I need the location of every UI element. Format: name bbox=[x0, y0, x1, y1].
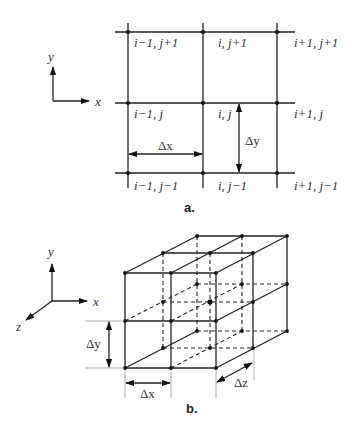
x-axis-label: x bbox=[92, 294, 99, 309]
node-labels: i−1, j+1 i, j+1 i+1, j+1 i−1, j i, j i+1… bbox=[134, 35, 338, 193]
node-label: i−1, j−1 bbox=[134, 178, 178, 193]
node-label: i+1, j+1 bbox=[294, 35, 338, 50]
node-label: i, j−1 bbox=[218, 178, 247, 193]
delta-y-label: Δy bbox=[86, 336, 101, 351]
hidden-edges bbox=[125, 236, 287, 368]
figure-b-caption: b. bbox=[186, 401, 198, 416]
node-label: i+1, j−1 bbox=[294, 178, 338, 193]
delta-x-label: Δx bbox=[158, 138, 173, 153]
delta-z-label: Δz bbox=[234, 375, 248, 390]
delta-x-dimension-3d: Δx bbox=[125, 370, 171, 401]
y-axis-label: y bbox=[46, 244, 54, 259]
node-label: i, j+1 bbox=[218, 35, 247, 50]
z-axis-label: z bbox=[15, 319, 21, 334]
node-label: i−1, j+1 bbox=[134, 35, 178, 50]
axes-3d-icon: y x z bbox=[15, 244, 99, 334]
delta-x-dimension: Δx bbox=[129, 138, 202, 154]
figure-b-3d-grid: y x z bbox=[15, 234, 289, 416]
delta-z-dimension-3d: Δz bbox=[216, 350, 254, 398]
x-axis-label: x bbox=[94, 94, 101, 109]
delta-y-dimension: Δy bbox=[239, 104, 260, 172]
delta-x-label: Δx bbox=[140, 386, 155, 401]
figure-a-2d-grid: y x i−1, j+1 i, j+1 i+1 bbox=[46, 23, 338, 215]
finite-difference-grid-figure: y x i−1, j+1 i, j+1 i+1 bbox=[0, 0, 352, 431]
axes-2d-icon: y x bbox=[46, 49, 101, 109]
delta-y-dimension-3d: Δy bbox=[85, 321, 124, 368]
node-label: i+1, j bbox=[294, 106, 323, 121]
delta-y-label: Δy bbox=[245, 133, 260, 148]
figure-a-caption: a. bbox=[184, 200, 195, 215]
node-label: i−1, j bbox=[134, 106, 163, 121]
node-label: i, j bbox=[218, 106, 232, 121]
y-axis-label: y bbox=[46, 49, 54, 64]
